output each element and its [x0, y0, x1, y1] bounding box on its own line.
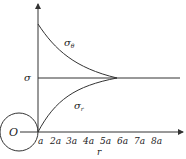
origin-label: O — [9, 126, 18, 139]
sigma-theta-curve — [38, 24, 117, 78]
x-tick-label: 7a — [134, 136, 145, 146]
sigma-r-label: σr — [74, 100, 85, 112]
x-tick-label: 6a — [117, 136, 128, 146]
stress-distribution-diagram: O σ σθ σr a 2a 3a 4a 5a 6a 7a 8a r — [0, 0, 186, 159]
x-tick-label: 2a — [49, 136, 61, 146]
x-tick-label: 4a — [82, 136, 94, 146]
sigma-label: σ — [24, 72, 32, 83]
sigma-theta-label: σθ — [64, 37, 75, 49]
x-axis-label: r — [97, 147, 102, 157]
x-tick-label: 3a — [66, 136, 77, 146]
x-tick-label: a — [38, 136, 43, 146]
x-tick-label: 8a — [151, 136, 162, 146]
x-tick-labels: a 2a 3a 4a 5a 6a 7a 8a — [38, 136, 162, 146]
x-tick-label: 5a — [100, 136, 111, 146]
